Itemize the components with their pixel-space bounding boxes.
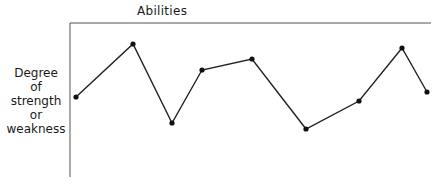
data-points [73,41,429,131]
data-point [424,89,429,94]
data-point [303,126,308,131]
data-point [199,67,204,72]
data-point [249,56,254,61]
data-point [399,45,404,50]
data-point [169,120,174,125]
line-chart [0,0,446,184]
data-point [73,94,78,99]
data-point [356,98,361,103]
data-point [130,41,135,46]
